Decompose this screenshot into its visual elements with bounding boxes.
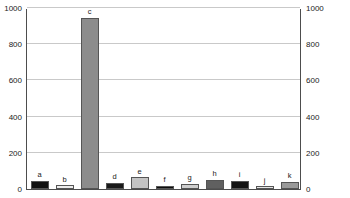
- bar: [256, 186, 274, 189]
- bar-chart: abcdefghijk 1000100080080060060040040020…: [0, 0, 350, 198]
- bar-label: c: [81, 8, 99, 16]
- bar: [156, 186, 174, 189]
- bar-label: e: [131, 168, 149, 176]
- y-tick-label-left: 200: [0, 150, 22, 158]
- y-tick-label-left: 400: [0, 114, 22, 122]
- bar: [181, 184, 199, 189]
- bar-label: b: [56, 176, 74, 184]
- bar-label: g: [181, 174, 199, 182]
- y-tick-label-right: 600: [306, 77, 334, 85]
- y-tick-label-left: 600: [0, 77, 22, 85]
- y-tick-label-right: 200: [306, 150, 334, 158]
- bar: [231, 181, 249, 189]
- y-tick-label-left: 800: [0, 41, 22, 49]
- bar-label: i: [231, 171, 249, 179]
- bar: [206, 180, 224, 189]
- y-tick-label-right: 400: [306, 114, 334, 122]
- gridline: [27, 7, 300, 8]
- bar: [56, 185, 74, 189]
- bar-label: j: [256, 177, 274, 185]
- bar-label: d: [106, 173, 124, 181]
- gridline: [27, 43, 300, 44]
- y-tick-label-right: 800: [306, 41, 334, 49]
- y-tick-label-right: 1000: [306, 5, 334, 13]
- bar-label: f: [156, 176, 174, 184]
- bar: [81, 18, 99, 189]
- bar-label: a: [31, 171, 49, 179]
- bar: [31, 181, 49, 189]
- bar-label: h: [206, 170, 224, 178]
- y-tick-label-right: 0: [306, 186, 334, 194]
- gridline: [27, 79, 300, 80]
- plot-area: abcdefghijk: [26, 9, 301, 190]
- bar: [281, 182, 299, 189]
- bar: [106, 183, 124, 189]
- gridline: [27, 116, 300, 117]
- y-tick-label-left: 0: [0, 186, 22, 194]
- bar: [131, 177, 149, 189]
- y-tick-label-left: 1000: [0, 5, 22, 13]
- bar-label: k: [281, 172, 299, 180]
- gridline: [27, 152, 300, 153]
